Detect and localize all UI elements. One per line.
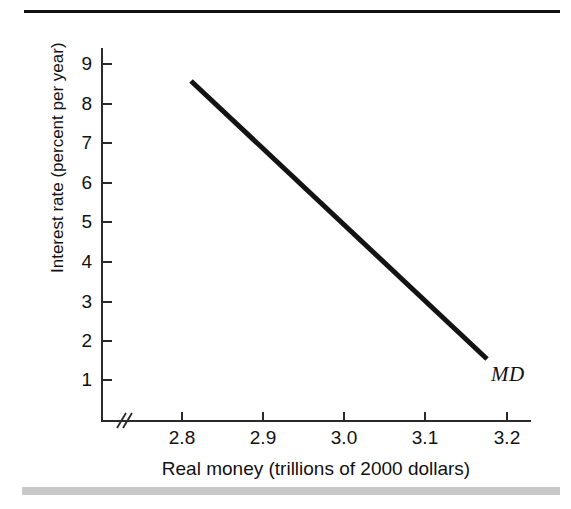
- x-tick-label-3-2: 3.2: [477, 428, 537, 447]
- md-line-segment: [191, 81, 487, 359]
- x-tick-label-3-0: 3.0: [314, 428, 374, 447]
- x-axis-line: [101, 420, 531, 422]
- y-tick-8: [103, 103, 112, 105]
- x-tick-label-2-9: 2.9: [233, 428, 293, 447]
- y-tick-1: [103, 379, 112, 381]
- bottom-divider-band: [22, 487, 560, 495]
- y-tick-label-5: 5: [64, 212, 92, 231]
- y-tick-label-3: 3: [64, 292, 92, 311]
- y-tick-label-6: 6: [64, 173, 92, 192]
- x-axis-title: Real money (trillions of 2000 dollars): [101, 458, 531, 480]
- x-tick-3-2: [506, 412, 508, 421]
- y-tick-label-4: 4: [64, 252, 92, 271]
- y-axis-title: Interest rate (percent per year): [48, 43, 68, 273]
- y-tick-label-2: 2: [64, 331, 92, 350]
- x-tick-3-0: [343, 412, 345, 421]
- y-tick-7: [103, 142, 112, 144]
- x-tick-label-2-8: 2.8: [152, 428, 212, 447]
- axis-break-icon: [112, 408, 138, 434]
- y-tick-4: [103, 261, 112, 263]
- chart-plot-area: 9 8 7 6 5 4 3 2 1: [0, 0, 571, 509]
- y-tick-2: [103, 340, 112, 342]
- x-tick-2-9: [262, 412, 264, 421]
- x-tick-3-1: [424, 412, 426, 421]
- y-tick-label-1: 1: [64, 370, 92, 389]
- y-tick-label-7: 7: [64, 133, 92, 152]
- y-tick-3: [103, 301, 112, 303]
- y-tick-5: [103, 221, 112, 223]
- y-tick-label-9: 9: [64, 54, 92, 73]
- y-tick-label-8: 8: [64, 94, 92, 113]
- x-tick-label-3-1: 3.1: [395, 428, 455, 447]
- y-tick-9: [103, 63, 112, 65]
- figure-canvas: 9 8 7 6 5 4 3 2 1: [0, 0, 571, 509]
- series-label-md: MD: [491, 362, 525, 387]
- y-tick-6: [103, 182, 112, 184]
- x-tick-2-8: [181, 412, 183, 421]
